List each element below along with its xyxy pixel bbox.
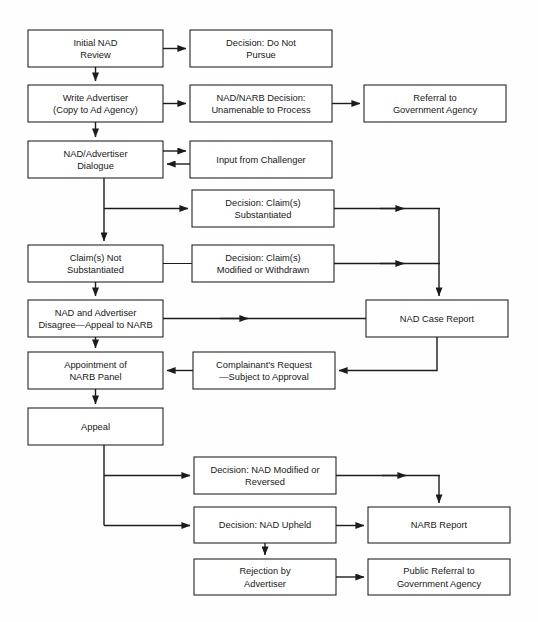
node-decision-do-not-pursue[interactable]: Decision: Do NotPursue — [190, 30, 332, 67]
node-box-nad-advertiser-disagree[interactable] — [28, 300, 163, 337]
node-write-advertiser[interactable]: Write Advertiser(Copy to Ad Agency) — [28, 85, 163, 122]
node-referral-to-government[interactable]: Referral toGovernment Agency — [364, 85, 506, 122]
node-box-decision-nad-modified[interactable] — [194, 457, 336, 494]
flowchart-canvas: Initial NADReviewDecision: Do NotPursueW… — [0, 0, 538, 622]
node-box-referral-to-government[interactable] — [364, 85, 506, 122]
edge-case-report-to-complainant — [339, 337, 437, 371]
node-complainants-request[interactable]: Complainant's Request—Subject to Approva… — [193, 352, 335, 389]
node-box-decision-claims-modified[interactable] — [192, 245, 334, 282]
node-label-nad-case-report: NAD Case Report — [400, 314, 475, 324]
node-box-nad-advertiser-dialogue[interactable] — [28, 141, 163, 178]
node-box-write-advertiser[interactable] — [28, 85, 163, 122]
node-label-decision-nad-upheld: Decision: NAD Upheld — [219, 520, 312, 530]
node-decision-claims-subst[interactable]: Decision: Claim(s)Substantiated — [192, 190, 334, 227]
node-decision-claims-modified[interactable]: Decision: Claim(s)Modified or Withdrawn — [192, 245, 334, 282]
node-initial-nad-review[interactable]: Initial NADReview — [28, 30, 163, 67]
node-label-narb-report: NARB Report — [411, 520, 468, 530]
node-nad-narb-decision[interactable]: NAD/NARB Decision:Unamenable to Process — [190, 85, 332, 122]
node-box-initial-nad-review[interactable] — [28, 30, 163, 67]
node-nad-advertiser-dialogue[interactable]: NAD/AdvertiserDialogue — [28, 141, 163, 178]
node-decision-nad-upheld[interactable]: Decision: NAD Upheld — [194, 507, 336, 543]
node-input-from-challenger[interactable]: Input from Challenger — [190, 141, 332, 178]
node-claims-not-substantiated[interactable]: Claim(s) NotSubstantiated — [28, 245, 163, 282]
node-label-appeal: Appeal — [81, 422, 110, 432]
node-box-rejection-by-advertiser[interactable] — [194, 559, 336, 595]
node-box-claims-not-substantiated[interactable] — [28, 245, 163, 282]
node-appeal[interactable]: Appeal — [28, 408, 163, 445]
node-box-decision-do-not-pursue[interactable] — [190, 30, 332, 67]
node-decision-nad-modified[interactable]: Decision: NAD Modified orReversed — [194, 457, 336, 494]
node-box-decision-claims-subst[interactable] — [192, 190, 334, 227]
node-box-nad-narb-decision[interactable] — [190, 85, 332, 122]
node-box-complainants-request[interactable] — [193, 352, 335, 389]
node-box-appointment-narb-panel[interactable] — [28, 352, 163, 389]
node-nad-advertiser-disagree[interactable]: NAD and AdvertiserDisagree—Appeal to NAR… — [28, 300, 163, 337]
node-public-referral-government[interactable]: Public Referral toGovernment Agency — [368, 559, 510, 595]
node-rejection-by-advertiser[interactable]: Rejection byAdvertiser — [194, 559, 336, 595]
node-layer: Initial NADReviewDecision: Do NotPursueW… — [28, 30, 510, 595]
node-nad-case-report[interactable]: NAD Case Report — [366, 300, 508, 337]
node-box-public-referral-government[interactable] — [368, 559, 510, 595]
node-narb-report[interactable]: NARB Report — [368, 507, 510, 543]
node-appointment-narb-panel[interactable]: Appointment ofNARB Panel — [28, 352, 163, 389]
node-label-input-from-challenger: Input from Challenger — [216, 155, 305, 165]
